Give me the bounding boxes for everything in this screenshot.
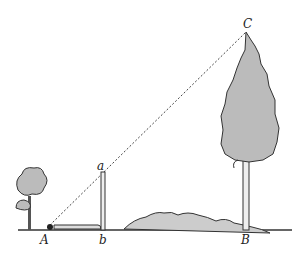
sight-line (47, 32, 246, 228)
label-b: b (99, 234, 107, 246)
similar-triangles-diagram: A b B a C (0, 0, 307, 258)
small-tree-icon (16, 168, 47, 230)
diagram-canvas (0, 0, 307, 258)
label-B: B (241, 234, 250, 246)
big-tree-foliage (221, 32, 279, 162)
label-a: a (97, 160, 104, 172)
observer-lying-icon (47, 224, 101, 230)
measuring-stick (101, 172, 105, 230)
label-A: A (40, 234, 49, 246)
label-C: C (243, 18, 252, 30)
